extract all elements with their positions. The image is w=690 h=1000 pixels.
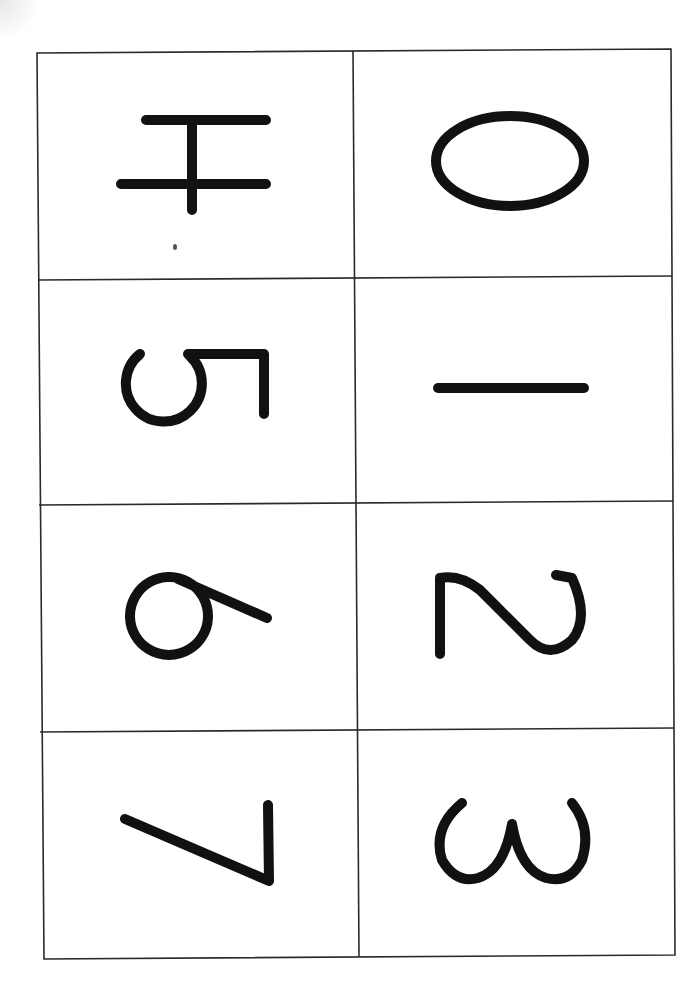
digit-7-glyph (125, 805, 269, 881)
card-digit-7 (125, 805, 269, 881)
digit-5-glyph (126, 354, 264, 422)
digit-3-glyph (440, 803, 586, 879)
digit-4-glyph (121, 120, 266, 210)
number-card-sheet (0, 0, 690, 1000)
digit-2-glyph (440, 575, 581, 654)
card-digit-5 (126, 354, 264, 422)
digit-6-glyph (130, 577, 267, 655)
card-digit-0 (436, 116, 584, 206)
digit-0-glyph (436, 116, 584, 206)
card-digit-4 (121, 120, 266, 250)
scan-speck (173, 244, 177, 250)
column-divider (353, 51, 359, 957)
card-digit-2 (440, 575, 581, 654)
card-digit-6 (130, 577, 267, 655)
card-digit-3 (440, 803, 586, 879)
